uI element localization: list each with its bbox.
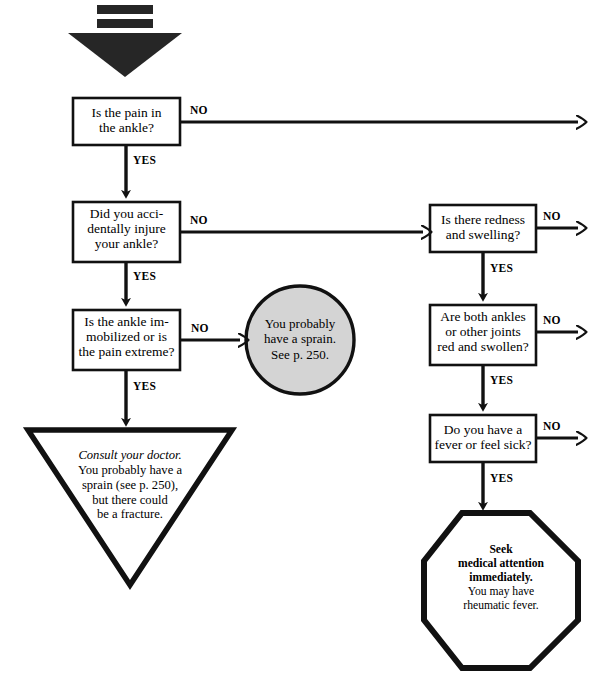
- flowchart-page: Is the pain in the ankle? NO YES Did you…: [0, 0, 599, 681]
- edge-label-q5-yes: YES: [490, 374, 513, 386]
- edge-label-q4-yes: YES: [490, 262, 513, 274]
- flowchart-canvas: [0, 0, 599, 681]
- edge-label-q4-no: NO: [543, 210, 561, 222]
- question-box-q1[interactable]: [73, 98, 180, 145]
- question-box-q4[interactable]: [430, 205, 536, 252]
- edge-label-q6-no: NO: [543, 420, 561, 432]
- start-marker: [68, 5, 182, 77]
- question-box-q5[interactable]: [430, 305, 536, 365]
- question-box-q2[interactable]: [73, 202, 180, 262]
- edge-label-q1-no: NO: [190, 104, 208, 116]
- edge-label-q6-yes: YES: [490, 472, 513, 484]
- edge-label-q2-no: NO: [190, 214, 208, 226]
- question-box-q6[interactable]: [430, 415, 536, 462]
- edge-label-q2-yes: YES: [133, 270, 156, 282]
- edge-label-q1-yes: YES: [133, 154, 156, 166]
- edge-label-q3-yes: YES: [133, 380, 156, 392]
- question-box-q3[interactable]: [73, 310, 180, 370]
- outcome-doctor-triangle[interactable]: [28, 430, 232, 585]
- edge-label-q5-no: NO: [543, 314, 561, 326]
- outcome-seek-octagon[interactable]: [424, 513, 578, 668]
- edge-label-q3-no: NO: [191, 322, 209, 334]
- outcome-sprain-ellipse[interactable]: [246, 286, 354, 394]
